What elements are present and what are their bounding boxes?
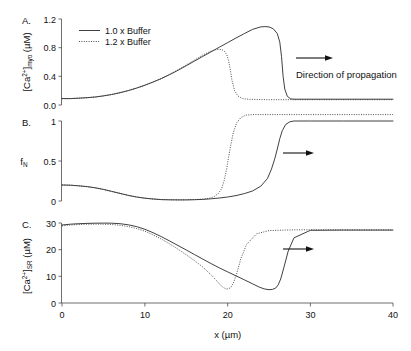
panel-a-ytick-label-2: 0.8 — [43, 43, 56, 53]
legend: 1.0 x Buffer 1.2 x Buffer — [79, 26, 151, 47]
panel-c-ylabel-units: (µM) — [21, 238, 32, 260]
panel-c-label: C. — [22, 219, 32, 230]
x-axis: 0 10 20 30 40 x (µm) — [59, 303, 398, 340]
panel-a-ylabel-main: [Ca — [21, 76, 32, 92]
x-tick-label-3: 30 — [305, 310, 315, 320]
direction-of-propagation-label: Direction of propagation — [296, 69, 397, 80]
x-axis-title-unit: µm) — [225, 329, 242, 340]
panel-c-ylabel-sub: SR — [26, 260, 33, 269]
x-tick-label-4: 40 — [388, 310, 398, 320]
x-tick-label-2: 20 — [223, 310, 233, 320]
figure-root: A. 1.2 0.8 0.4 0.0 [Ca2+]myo (µM) — [0, 0, 411, 351]
panel-a-y-axis-title: [Ca2+]myo (µM) — [21, 32, 35, 91]
panel-b-propagation-arrow-group — [283, 150, 314, 156]
panel-c-curve-dotted — [62, 224, 393, 289]
panel-a-label: A. — [22, 15, 31, 26]
panel-b-curve-dotted — [62, 115, 393, 200]
x-tick-label-1: 10 — [140, 310, 150, 320]
panel-c-propagation-arrow-group — [283, 246, 314, 252]
panel-c-y-axis-title: [Ca2+]SR (µM) — [21, 238, 34, 294]
panel-b-ytick-label-1: 0.5 — [43, 157, 56, 167]
panel-b-ytick-label-0: 0 — [51, 197, 56, 207]
panel-a-ytick-label-0: 0.0 — [43, 101, 56, 111]
panel-a-ylabel-sub: myo — [26, 54, 34, 67]
panel-b-curve-solid — [62, 121, 393, 200]
x-tick-label-0: 0 — [59, 310, 64, 320]
direction-of-propagation-arrowhead — [325, 55, 333, 61]
panel-c-curve-solid — [62, 223, 393, 290]
x-axis-title: x (µm) — [214, 329, 241, 340]
panel-b-label: B. — [22, 117, 31, 128]
figure-canvas: A. 1.2 0.8 0.4 0.0 [Ca2+]myo (µM) — [0, 0, 411, 351]
panel-b-ylabel-sub: N — [23, 161, 28, 168]
panel-b-propagation-arrowhead — [306, 150, 314, 156]
panel-c: C. 30 20 10 0 [Ca2+]SR (µM) — [21, 219, 398, 341]
panel-c-ytick-label-2: 20 — [46, 245, 56, 255]
panel-c-ylabel-main: [Ca — [21, 278, 32, 294]
panel-a: A. 1.2 0.8 0.4 0.0 [Ca2+]myo (µM) — [21, 15, 393, 111]
legend-label-0: 1.0 x Buffer — [105, 26, 151, 36]
legend-label-1: 1.2 x Buffer — [105, 37, 151, 47]
panel-b: B. 1 0.5 0 fN — [20, 115, 393, 207]
panel-a-ytick-label-3: 1.2 — [43, 15, 56, 25]
svg-text:[Ca2+]SR (µM): [Ca2+]SR (µM) — [21, 238, 34, 294]
panel-b-y-axis-title: fN — [20, 156, 28, 168]
panel-b-ytick-label-2: 1 — [51, 117, 56, 127]
direction-of-propagation-annotation: Direction of propagation — [296, 55, 397, 80]
panel-a-ylabel-units: (µM) — [21, 32, 32, 54]
panel-c-ytick-label-0: 0 — [51, 299, 56, 309]
svg-text:[Ca2+]myo (µM): [Ca2+]myo (µM) — [21, 32, 35, 91]
panel-a-ytick-label-1: 0.4 — [43, 72, 56, 82]
panel-c-ytick-label-1: 10 — [46, 272, 56, 282]
panel-c-ytick-label-3: 30 — [46, 219, 56, 229]
panel-c-propagation-arrowhead — [306, 246, 314, 252]
